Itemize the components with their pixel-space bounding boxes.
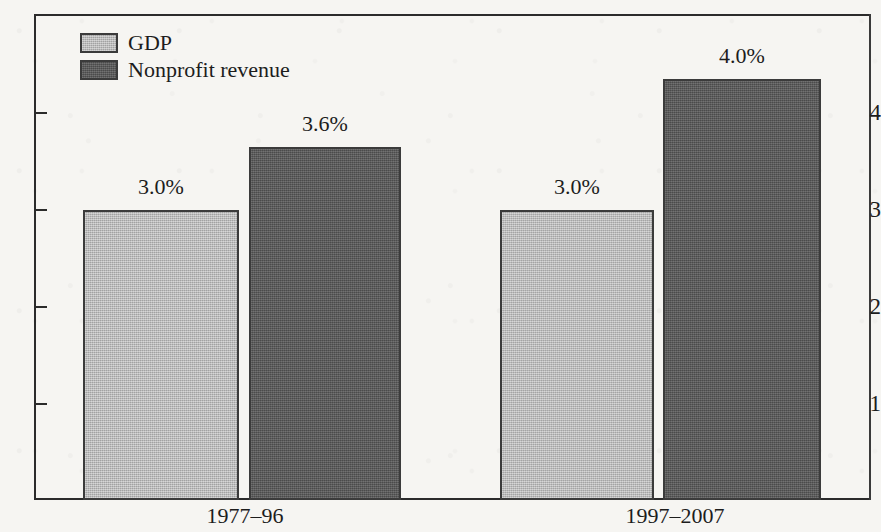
legend-item-gdp: GDP bbox=[80, 29, 290, 56]
x-axis-label-1997-2007: 1997–2007 bbox=[575, 505, 775, 527]
y-tick-mark-1 bbox=[34, 403, 47, 405]
y-tick-mark-2 bbox=[34, 306, 47, 308]
plot-frame-right-edge bbox=[869, 14, 871, 500]
y-tick-mark-4 bbox=[34, 112, 47, 114]
y-tick-mark-3 bbox=[34, 209, 47, 211]
legend-swatch-gdp bbox=[80, 33, 118, 53]
y-tick-label-3: 3 bbox=[855, 198, 881, 221]
bar-value-nonprofit-1977-96: 3.6% bbox=[249, 113, 401, 135]
bar-value-nonprofit-1997-2007: 4.0% bbox=[663, 45, 821, 67]
bar-nonprofit-1997-2007 bbox=[663, 79, 821, 500]
legend-item-nonprofit-revenue: Nonprofit revenue bbox=[80, 56, 290, 83]
x-axis-label-1977-96: 1977–96 bbox=[160, 505, 330, 527]
y-tick-label-1: 1 bbox=[855, 392, 881, 415]
bar-value-gdp-1997-2007: 3.0% bbox=[500, 176, 654, 198]
bar-chart: 4 3 2 1 3.0% 3.6% 3.0% 4.0% GDP Nonprofi… bbox=[0, 0, 881, 532]
y-tick-label-2: 2 bbox=[855, 295, 881, 318]
legend-swatch-nonprofit-revenue bbox=[80, 60, 118, 80]
legend-label-gdp: GDP bbox=[128, 32, 172, 54]
bar-value-gdp-1977-96: 3.0% bbox=[83, 176, 239, 198]
y-tick-label-4: 4 bbox=[855, 101, 881, 124]
bar-nonprofit-1977-96 bbox=[249, 147, 401, 500]
bar-gdp-1977-96 bbox=[83, 210, 239, 500]
legend-label-nonprofit-revenue: Nonprofit revenue bbox=[128, 59, 290, 81]
legend: GDP Nonprofit revenue bbox=[80, 29, 290, 83]
bar-gdp-1997-2007 bbox=[500, 210, 654, 500]
